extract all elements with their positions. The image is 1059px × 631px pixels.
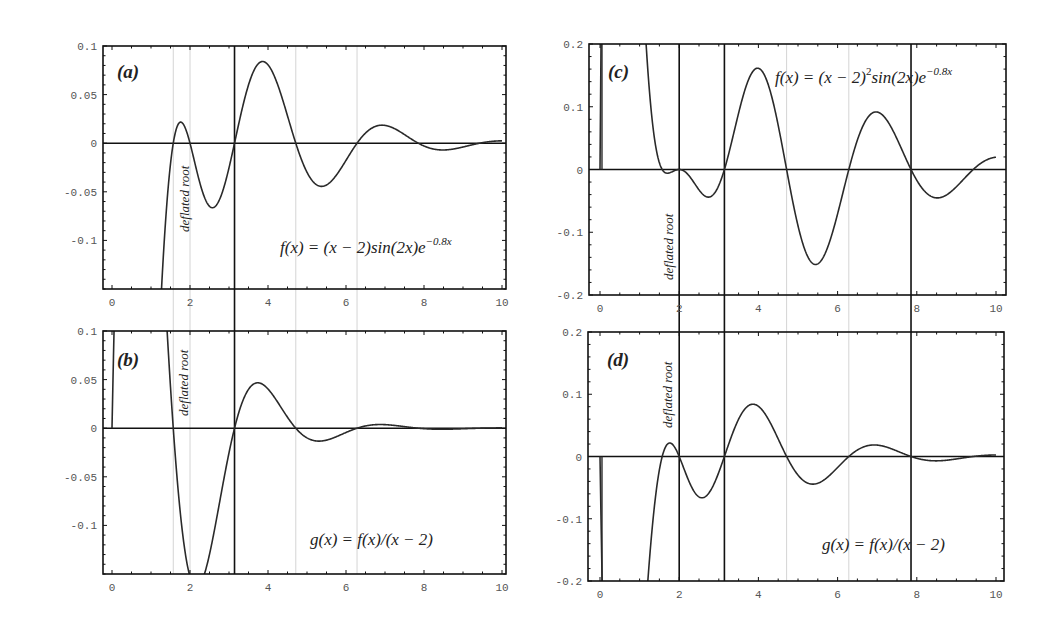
formula-a-text: f(x) = (x − 2)sin(2x)e [280,238,426,257]
y-tick-label: 0.05 [71,375,97,387]
x-tick-label: 10 [495,582,508,594]
x-tick-label: 4 [265,297,272,309]
annotation-deflated-root-d: deflated root [660,361,675,428]
y-tick-label: 0.1 [563,102,583,114]
y-tick-label: -0.2 [557,290,583,302]
spanning-vertical-lines [173,44,911,581]
x-tick-label: 2 [676,303,683,315]
y-tick-label: 0 [576,165,583,177]
formula-d-text: g(x) = f(x)/(x − 2) [822,535,945,554]
chart-panel-d: 02468100.20.10-0.1-0.2 [556,327,1004,631]
x-tick-label: 8 [421,297,428,309]
chart-panel-a: 02468100.10.050-0.05-0.1 [64,41,509,339]
y-tick-label: -0.1 [557,227,584,239]
formula-label-b: g(x) = f(x)/(x − 2) [310,530,433,549]
panel-label-c: (c) [608,61,629,83]
annotation-deflated-root-b: deflated root [176,349,191,416]
x-tick-label: 0 [109,297,116,309]
chart-panel-b: 02468100.10.050-0.05-0.1 [64,281,509,594]
x-tick-label: 6 [343,582,350,594]
y-tick-label: 0.2 [563,39,583,51]
formula-c-exponent: −0.8x [926,65,952,77]
panel-label-d: (d) [607,349,629,371]
annotation-deflated-root-c: deflated root [661,213,676,280]
plot-frame [103,331,506,574]
function-curve [151,62,502,339]
formula-label-c: f(x) = (x − 2)2sin(2x)e−0.8x [775,65,952,87]
y-tick-label: 0.2 [562,327,582,339]
x-tick-label: 2 [187,582,194,594]
function-curve [600,0,996,265]
formula-c-rest: sin(2x)e [871,68,926,87]
y-tick-label: 0.1 [77,326,97,338]
figure-canvas: 02468100.10.050-0.05-0.1 02468100.10.050… [0,0,1059,631]
y-tick-label: -0.1 [71,235,98,247]
y-tick-label: -0.05 [64,472,97,484]
x-tick-label: 8 [913,589,920,601]
x-tick-label: 8 [913,303,920,315]
x-tick-label: 4 [265,582,272,594]
y-tick-label: 0.1 [562,389,582,401]
x-tick-label: 2 [676,589,683,601]
formula-b-text: g(x) = f(x)/(x − 2) [310,530,433,549]
x-tick-label: 10 [989,303,1002,315]
formula-c-text: f(x) = (x − 2) [775,68,866,87]
y-tick-label: -0.1 [71,520,98,532]
formula-label-a: f(x) = (x − 2)sin(2x)e−0.8x [280,235,452,257]
y-tick-label: 0.1 [77,41,97,53]
x-tick-label: 2 [187,297,194,309]
x-tick-label: 6 [343,297,350,309]
annotation-deflated-root-a: deflated root [177,165,192,232]
panel-label-a: (a) [117,61,139,83]
x-tick-label: 4 [755,303,762,315]
x-tick-label: 0 [597,303,604,315]
y-tick-label: 0.05 [71,90,97,102]
x-tick-label: 6 [834,589,841,601]
function-curve [600,404,996,631]
x-tick-label: 10 [495,297,508,309]
y-tick-label: 0 [575,452,582,464]
panel-label-b: (b) [117,349,139,371]
x-tick-label: 8 [421,582,428,594]
function-curve [112,281,502,588]
y-tick-label: 0 [90,138,97,150]
y-tick-label: -0.1 [556,514,583,526]
x-tick-label: 0 [597,589,604,601]
x-tick-label: 0 [109,582,116,594]
x-tick-label: 4 [755,589,762,601]
chart-panel-c: 02468100.20.10-0.1-0.2 [557,0,1006,315]
x-tick-label: 10 [989,589,1002,601]
y-tick-label: -0.05 [64,187,97,199]
x-tick-label: 6 [834,303,841,315]
y-tick-label: -0.2 [556,576,582,588]
formula-label-d: g(x) = f(x)/(x − 2) [822,535,945,554]
y-tick-label: 0 [90,423,97,435]
formula-a-exponent: −0.8x [426,235,452,247]
